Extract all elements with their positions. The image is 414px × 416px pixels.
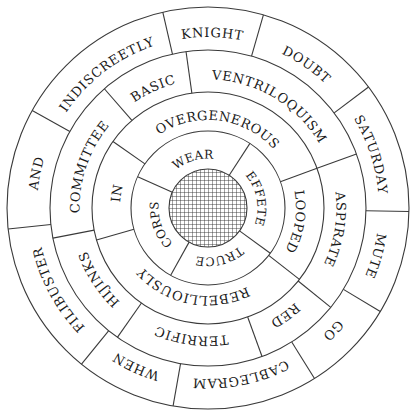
cell-divider	[366, 211, 409, 212]
word-in: IN	[108, 182, 126, 203]
center-hatched-disc	[169, 169, 247, 247]
word-wheel-diagram: KNIGHTDOUBTSATURDAYMUTEGOCABLEGRAMWHENFI…	[0, 0, 414, 416]
